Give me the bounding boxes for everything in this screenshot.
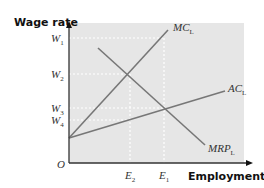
- origin-label: O: [57, 158, 65, 170]
- monopsony-labour-market-chart: Wage rate Employment O W1W2W3W4 E2E1 MCL…: [0, 0, 264, 188]
- x-axis-title: Employment: [188, 170, 264, 183]
- x-tick-labels: E2E1: [124, 169, 170, 184]
- x-tick-e2: E2: [124, 169, 136, 184]
- x-axis-arrow-icon: [246, 160, 253, 166]
- x-tick-e1: E1: [158, 169, 170, 184]
- y-tick-labels: W1W2W3W4: [51, 32, 64, 129]
- y-tick-w2: W2: [51, 68, 64, 83]
- y-axis-title: Wage rate: [14, 16, 78, 29]
- y-tick-w1: W1: [51, 32, 64, 47]
